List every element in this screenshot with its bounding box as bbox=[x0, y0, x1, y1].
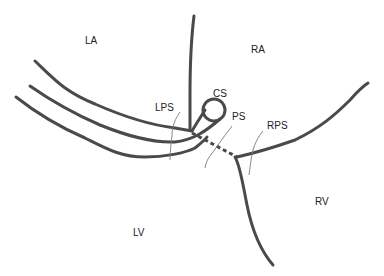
label-rps: RPS bbox=[267, 121, 288, 131]
label-ra: RA bbox=[251, 45, 265, 55]
label-rv: RV bbox=[315, 197, 329, 207]
right-curve bbox=[237, 83, 368, 157]
label-lv: LV bbox=[133, 228, 145, 238]
left-curve-middle bbox=[30, 86, 198, 142]
label-la: LA bbox=[85, 36, 97, 46]
atrial-septum-line bbox=[190, 16, 194, 130]
label-ps: PS bbox=[232, 112, 245, 122]
left-curve-lower bbox=[16, 97, 207, 157]
label-lps: LPS bbox=[155, 103, 174, 113]
label-cs: CS bbox=[213, 89, 227, 99]
left-curve-upper bbox=[35, 61, 192, 131]
heart-diagram bbox=[0, 0, 384, 276]
ventricular-septum-line bbox=[235, 157, 273, 265]
